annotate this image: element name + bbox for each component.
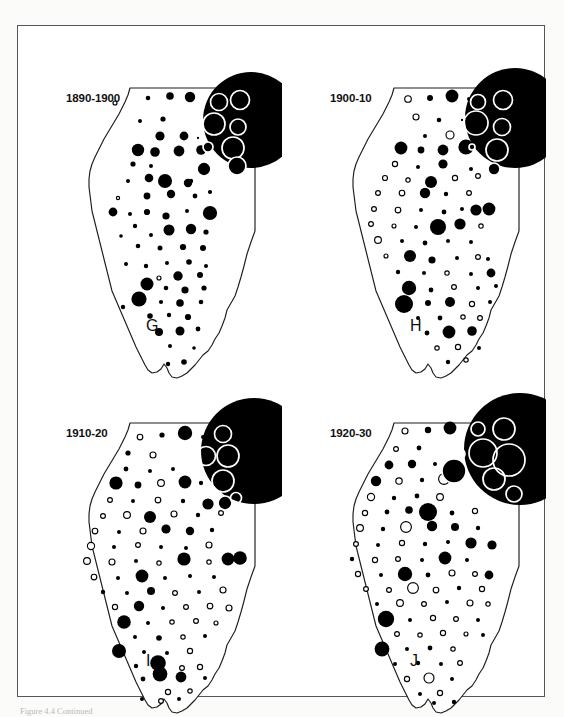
map-svg-H: 1900-10 H: [282, 26, 546, 386]
county-symbol-filled: [451, 523, 459, 531]
county-symbol-filled: [402, 281, 416, 295]
county-symbol-filled: [185, 209, 189, 213]
county-symbol-filled: [457, 586, 461, 590]
county-symbol-filled: [126, 179, 130, 183]
county-symbol-filled: [476, 286, 480, 290]
county-symbol-filled: [132, 144, 144, 156]
chicago-subcounty-filled: [196, 136, 200, 140]
chicago-subcounty-filled: [442, 459, 466, 483]
county-symbol-filled: [426, 573, 431, 578]
county-symbol-open: [445, 271, 449, 275]
chicago-subcounty-filled: [228, 157, 246, 175]
county-symbol-filled: [135, 482, 142, 489]
county-symbol-filled: [134, 664, 138, 668]
county-symbol-filled: [199, 300, 204, 305]
county-symbol-filled: [444, 422, 457, 435]
county-symbol-filled: [144, 193, 151, 200]
panel-letter-G: G: [146, 317, 158, 334]
county-symbol-open: [433, 587, 439, 593]
county-symbol-filled: [156, 635, 162, 641]
county-symbol-filled: [375, 642, 390, 657]
county-symbol-filled: [184, 546, 188, 550]
county-symbol-open: [395, 207, 401, 213]
county-symbol-filled: [204, 264, 208, 268]
county-symbol-filled: [398, 567, 412, 581]
map-svg-I: 1910-20 I: [18, 361, 282, 717]
county-symbol-open: [476, 174, 481, 179]
county-symbol-filled: [131, 291, 146, 306]
county-symbol-filled: [177, 697, 181, 701]
county-symbol-filled: [404, 250, 416, 262]
county-symbol-filled: [180, 244, 186, 250]
county-symbol-filled: [146, 96, 151, 101]
county-symbol-filled: [465, 558, 469, 562]
county-symbol-filled: [203, 676, 207, 680]
county-symbol-open: [375, 237, 382, 244]
county-symbol-open: [401, 522, 412, 533]
period-label-I: 1910-20: [66, 427, 108, 439]
county-symbol-filled: [178, 426, 192, 440]
county-symbol-filled: [450, 677, 454, 681]
county-symbol-filled: [432, 701, 436, 705]
county-symbol-filled: [168, 344, 172, 348]
county-symbol-filled: [417, 446, 422, 451]
county-symbol-filled: [109, 476, 122, 489]
county-symbol-filled: [439, 662, 443, 666]
county-symbol-open: [454, 617, 459, 622]
county-symbol-filled: [395, 295, 413, 313]
county-symbol-filled: [124, 262, 128, 266]
county-symbol-open: [170, 620, 174, 624]
county-symbol-filled: [418, 692, 422, 696]
figure-sheet: 1890-1900 G 1900-10 H: [0, 0, 564, 717]
county-symbol-filled: [202, 498, 213, 509]
county-symbol-filled: [437, 118, 442, 123]
county-symbol-filled: [423, 134, 427, 138]
county-symbol-open: [452, 175, 457, 180]
county-symbol-open: [372, 557, 377, 562]
county-symbol-open: [188, 689, 192, 693]
county-symbol-filled: [189, 179, 193, 183]
county-symbol-filled: [476, 526, 480, 530]
map-panel-I: 1910-20 I: [18, 361, 282, 717]
county-symbol-open: [187, 648, 192, 653]
county-symbol-filled: [371, 476, 381, 486]
county-symbol-open: [424, 673, 434, 683]
county-symbol-filled: [150, 147, 160, 157]
county-symbol-filled: [470, 204, 481, 215]
county-symbol-filled: [203, 206, 217, 220]
county-symbol-open: [197, 664, 202, 669]
county-symbol-filled: [423, 241, 428, 246]
county-symbol-open: [405, 96, 412, 103]
county-symbol-filled: [177, 552, 190, 565]
county-symbol-open: [399, 540, 404, 545]
county-symbol-open: [408, 583, 419, 594]
county-symbol-filled: [141, 278, 154, 291]
county-symbol-filled: [160, 116, 165, 121]
county-symbol-filled: [379, 573, 383, 577]
county-symbol-filled: [119, 234, 123, 238]
county-symbol-open: [87, 542, 94, 549]
county-symbol-filled: [460, 207, 464, 211]
county-symbol-filled: [469, 167, 473, 171]
county-symbol-filled: [488, 300, 492, 304]
county-symbol-filled: [452, 700, 456, 704]
county-symbol-filled: [131, 499, 135, 503]
county-symbol-filled: [420, 478, 424, 482]
period-label-H: 1900-10: [330, 92, 372, 104]
county-symbol-open: [395, 632, 400, 637]
county-symbol-filled: [415, 494, 420, 499]
county-symbol-filled: [203, 229, 208, 234]
county-symbol-filled: [450, 511, 455, 516]
county-symbol-filled: [381, 527, 385, 531]
county-symbol-open: [406, 178, 410, 182]
county-symbol-open: [413, 114, 419, 120]
county-symbol-open: [372, 207, 377, 212]
county-symbol-filled: [176, 672, 187, 683]
county-symbol-open: [449, 570, 455, 576]
county-symbol-open: [367, 493, 374, 500]
county-symbol-open: [150, 452, 156, 458]
county-symbol-open: [399, 190, 405, 196]
county-symbol-filled: [167, 190, 175, 198]
county-symbol-filled: [425, 331, 430, 336]
county-symbol-filled: [181, 499, 185, 503]
